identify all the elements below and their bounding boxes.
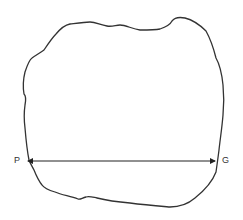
point-label-p: P (14, 156, 20, 165)
diagram-canvas (0, 0, 243, 220)
irregular-outline (23, 17, 223, 207)
point-label-g: G (222, 156, 229, 165)
